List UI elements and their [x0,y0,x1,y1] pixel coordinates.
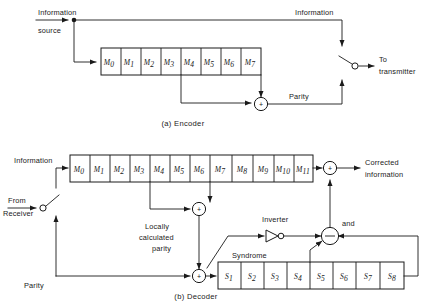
encoder-information-out-label: Information [295,8,334,17]
corrected-information-label-line1: Corrected [365,158,399,167]
correction-adder-symbol: + [328,165,332,172]
inverter-triangle [266,230,278,242]
encoder-parity-adder: + [254,97,267,110]
syndrome-label: Syndrome [232,251,267,260]
syndrome-s4-tap-wire [310,241,322,262]
syndrome-register-outline [218,262,404,289]
syndrome-adder: + [192,269,205,282]
to-transmitter-label-line1: To [379,55,387,64]
from-label-line1: From [8,196,26,205]
decoder-information-wire [56,168,68,188]
inverter-bubble [278,233,284,239]
transmitter-switch[interactable] [339,56,358,69]
decoder-shift-register: M0 M1 M2 M3 M4 M5 M6 M7 M8 M9 M10 M11 [70,155,313,182]
locally-calculated-parity-label-line3: parity [152,244,171,253]
decoder-caption: (b) Decoder [174,292,218,301]
transmitter-switch-contact[interactable] [352,63,358,69]
inverter-label: Inverter [262,215,289,224]
and-gate [321,227,338,244]
locally-calculated-parity-label-line2: calculated [139,233,174,242]
from-label-line2: Receiver [3,209,34,218]
and-gate-label: and [342,219,355,228]
encoder-caption: (a) Encoder [162,119,205,128]
inverter-icon [266,230,284,242]
decoder-group: Information From Receiver Parity [3,155,418,301]
decoder-information-label: Information [14,156,53,165]
locally-calculated-parity-label-line1: Locally [145,222,169,231]
receiver-switch[interactable] [40,195,59,211]
receiver-switch-blade[interactable] [46,195,59,206]
block-diagram: Information source Information [0,0,428,304]
figure-canvas: Information source Information [0,0,428,304]
encoder-parity-adder-symbol: + [259,101,263,108]
syndrome-shift-register: S1 S2 S3 S4 S5 S6 S7 S8 [218,262,404,289]
local-parity-adder-symbol: + [197,206,201,213]
encoder-register-input-wire [74,20,96,62]
to-transmitter-label-line2: transmitter [379,67,416,76]
decoder-tap-m3-wire [150,182,190,209]
encoder-shift-register: M0 M1 M2 M3 M4 M5 M6 M7 [101,48,261,75]
correction-adder: + [323,161,336,174]
syndrome-adder-symbol: + [197,273,201,280]
decoder-parity-label: Parity [24,281,44,290]
encoder-parity-label: Parity [289,92,309,101]
corrected-information-label-line2: information [365,170,403,179]
transmitter-switch-blade[interactable] [339,56,352,64]
encoder-information-rail [74,20,342,46]
encoder-tap-m3-wire [181,75,251,103]
encoder-information-source-label-line1: Information [38,8,77,17]
encoder-group: Information source Information [36,8,416,128]
encoder-information-source-label-line2: source [38,26,61,35]
local-parity-adder: + [192,202,205,215]
receiver-switch-contact[interactable] [40,205,46,211]
